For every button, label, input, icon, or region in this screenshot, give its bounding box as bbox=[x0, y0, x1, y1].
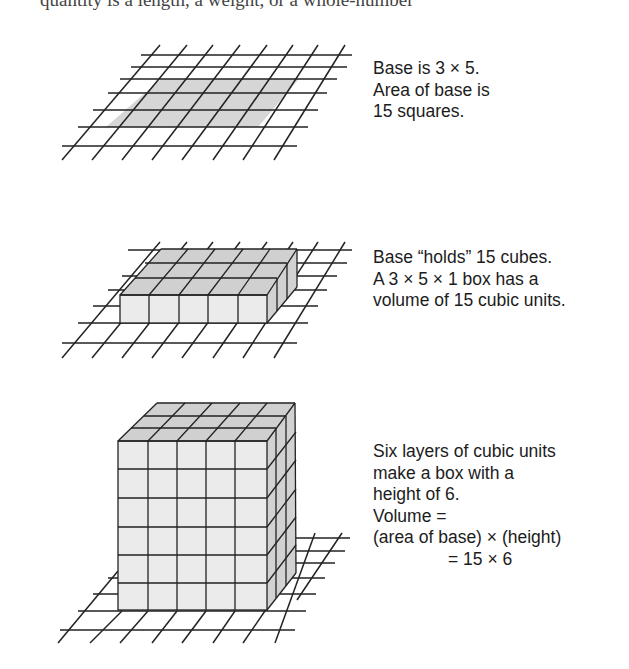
caption-line: A 3 × 5 × 1 box has a bbox=[373, 269, 566, 291]
caption-line: volume of 15 cubic units. bbox=[373, 290, 566, 312]
caption-line: Six layers of cubic units bbox=[373, 441, 561, 463]
cube-stack-box bbox=[118, 403, 296, 610]
caption-base: Base is 3 × 5. Area of base is 15 square… bbox=[373, 58, 490, 123]
figure-one-layer bbox=[62, 242, 352, 358]
figure-six-layers bbox=[58, 403, 350, 643]
caption-line: Base is 3 × 5. bbox=[373, 58, 490, 80]
volume-illustration: quantity is a length, a weight, or a who… bbox=[0, 0, 629, 669]
caption-line: make a box with a bbox=[373, 463, 561, 485]
caption-line: (area of base) × (height) bbox=[373, 527, 561, 549]
cube-layer-box bbox=[120, 249, 297, 323]
caption-line: 15 squares. bbox=[373, 101, 490, 123]
caption-line: Area of base is bbox=[373, 80, 490, 102]
caption-six-layers: Six layers of cubic units make a box wit… bbox=[373, 441, 561, 570]
figure-base-grid bbox=[62, 45, 352, 160]
caption-line: Volume = bbox=[373, 506, 561, 528]
caption-line-result: = 15 × 6 bbox=[373, 549, 561, 571]
caption-one-layer: Base “holds” 15 cubes. A 3 × 5 × 1 box h… bbox=[373, 247, 566, 312]
caption-line: height of 6. bbox=[373, 484, 561, 506]
caption-line: Base “holds” 15 cubes. bbox=[373, 247, 566, 269]
